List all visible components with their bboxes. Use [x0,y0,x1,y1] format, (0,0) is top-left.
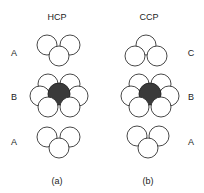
ccp-layer-a-bottom [127,126,169,158]
sphere [151,97,171,117]
panel-ccp: CCP C B A (b) [121,12,195,186]
layer-label-ccp-bottom: A [188,137,194,147]
packing-diagram: HCP A B A (a) CCP C [0,0,204,193]
layer-label-hcp-top: A [11,48,17,58]
ccp-layer-c-top [125,35,167,66]
panel-title-ccp: CCP [139,12,158,22]
layer-label-ccp-top: C [188,48,195,58]
ccp-layer-b [121,74,179,117]
sphere [60,97,80,117]
hcp-layer-a-top [37,35,80,66]
sphere [138,138,158,158]
sphere [38,97,58,117]
panel-hcp: HCP A B A (a) [11,12,88,186]
sphere [49,138,69,158]
layer-label-ccp-middle: B [188,92,194,102]
hcp-layer-a-bottom [37,127,80,158]
hcp-layer-b [30,74,88,117]
panel-caption-a: (a) [52,176,63,186]
panel-caption-b: (b) [143,176,154,186]
layer-label-hcp-bottom: A [11,137,17,147]
sphere [129,97,149,117]
layer-label-hcp-middle: B [11,92,17,102]
sphere [147,46,167,66]
panel-title-hcp: HCP [47,12,66,22]
sphere [125,46,145,66]
sphere [49,46,69,66]
